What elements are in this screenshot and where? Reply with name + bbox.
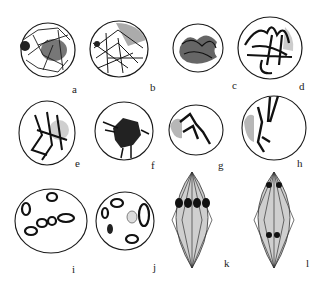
panel-h: h (240, 92, 308, 162)
panel-e: e (17, 100, 79, 168)
panel-f: f (93, 100, 155, 162)
panel-c: c (172, 22, 224, 74)
panel-label-i: i (72, 264, 75, 275)
panel-label-k: k (224, 258, 230, 269)
cell-contracted-drawing (93, 100, 155, 162)
panel-label-j: j (153, 262, 156, 273)
panel-label-d: d (299, 81, 305, 92)
panel-b: b (88, 18, 150, 80)
panel-g: g (168, 104, 224, 156)
cell-diakinesis-j-drawing (95, 191, 155, 251)
panel-label-a: a (72, 84, 77, 95)
cell-diplotene-g-drawing (168, 104, 224, 156)
cell-synizesis-drawing (172, 22, 224, 74)
cell-diplotene-h-drawing (240, 92, 308, 162)
panel-i: i (14, 188, 88, 254)
panel-label-e: e (75, 158, 80, 169)
panel-label-c: c (232, 80, 237, 91)
panel-k: k (162, 170, 222, 270)
cell-zygotene-drawing (88, 18, 150, 80)
panel-label-b: b (150, 82, 156, 93)
spindle-metaphase-drawing (162, 170, 222, 270)
panel-l: l (244, 170, 304, 270)
panel-a: a (18, 20, 78, 80)
cell-diplotene-drawing (17, 100, 79, 168)
cell-pachytene-drawing (237, 15, 303, 81)
panel-label-h: h (297, 158, 303, 169)
panel-j: j (95, 191, 155, 251)
panel-label-l: l (306, 258, 309, 269)
panel-d: d (237, 15, 303, 81)
cell-diakinesis-i-drawing (14, 188, 88, 254)
spindle-anaphase-drawing (244, 170, 304, 270)
panel-label-f: f (151, 160, 155, 171)
cell-leptotene-drawing (18, 20, 78, 80)
